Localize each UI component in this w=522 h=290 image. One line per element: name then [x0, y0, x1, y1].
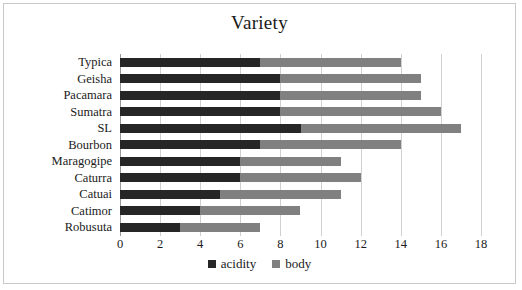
- legend-item-acidity[interactable]: acidity: [208, 257, 256, 270]
- bar-segment-acidity: [120, 190, 220, 199]
- bar-segment-body: [280, 107, 440, 116]
- bar-row: [120, 203, 481, 220]
- y-axis-label-catuai: Catuai: [4, 186, 116, 203]
- legend-item-body[interactable]: body: [272, 257, 311, 270]
- y-axis-label-sumatra: Sumatra: [4, 104, 116, 121]
- bar-row: [120, 54, 481, 71]
- x-axis-tick-0: 0: [117, 237, 123, 252]
- bar-segment-acidity: [120, 74, 280, 83]
- square-marker-dark: [208, 260, 216, 268]
- y-axis-label-pacamara: Pacamara: [4, 87, 116, 104]
- bar-segment-body: [180, 223, 260, 232]
- bars-layer: [120, 54, 481, 236]
- bar-row: [120, 186, 481, 203]
- y-axis-label-typica: Typica: [4, 54, 116, 71]
- chart-title: Variety: [4, 12, 515, 34]
- bar-segment-acidity: [120, 107, 280, 116]
- bar-segment-acidity: [120, 124, 301, 133]
- bar-segment-acidity: [120, 173, 240, 182]
- x-axis-tick-labels: 024681012141618: [120, 237, 481, 255]
- chart-frame: Variety TypicaGeishaPacamaraSumatraSLBou…: [3, 3, 516, 284]
- y-axis-category-labels: TypicaGeishaPacamaraSumatraSLBourbonMara…: [4, 54, 116, 236]
- bar-row: [120, 170, 481, 187]
- bar-segment-body: [240, 173, 360, 182]
- bar-row: [120, 71, 481, 88]
- y-axis-label-robusuta: Robusuta: [4, 219, 116, 236]
- bar-row: [120, 104, 481, 121]
- y-axis-label-maragogipe: Maragogipe: [4, 153, 116, 170]
- bar-segment-body: [200, 206, 300, 215]
- x-axis-tick-8: 8: [277, 237, 283, 252]
- bar-row: [120, 219, 481, 236]
- y-axis-label-catimor: Catimor: [4, 203, 116, 220]
- legend-label: body: [285, 257, 311, 270]
- x-axis-tick-10: 10: [314, 237, 327, 252]
- bar-segment-body: [220, 190, 340, 199]
- x-axis-tick-14: 14: [395, 237, 408, 252]
- bar-segment-acidity: [120, 91, 280, 100]
- bar-row: [120, 120, 481, 137]
- plot-area: [120, 54, 481, 236]
- bar-segment-body: [260, 140, 400, 149]
- x-axis-tick-6: 6: [237, 237, 243, 252]
- bar-row: [120, 87, 481, 104]
- y-axis-label-caturra: Caturra: [4, 170, 116, 187]
- y-axis-label-sl: SL: [4, 120, 116, 137]
- square-marker-gray: [272, 260, 280, 268]
- bar-row: [120, 137, 481, 154]
- chart-legend: aciditybody: [4, 257, 515, 270]
- x-axis-tick-16: 16: [435, 237, 448, 252]
- bar-segment-acidity: [120, 223, 180, 232]
- bar-segment-body: [240, 157, 340, 166]
- gridline: [481, 54, 482, 236]
- bar-segment-body: [260, 58, 400, 67]
- x-axis-tick-18: 18: [475, 237, 488, 252]
- legend-label: acidity: [221, 257, 256, 270]
- y-axis-label-geisha: Geisha: [4, 71, 116, 88]
- x-axis-tick-4: 4: [197, 237, 203, 252]
- bar-segment-acidity: [120, 140, 260, 149]
- bar-segment-acidity: [120, 58, 260, 67]
- bar-segment-acidity: [120, 157, 240, 166]
- x-axis-tick-2: 2: [157, 237, 163, 252]
- bar-row: [120, 153, 481, 170]
- bar-segment-body: [301, 124, 461, 133]
- bar-segment-body: [280, 74, 420, 83]
- bar-segment-body: [280, 91, 420, 100]
- y-axis-label-bourbon: Bourbon: [4, 137, 116, 154]
- bar-segment-acidity: [120, 206, 200, 215]
- x-axis-tick-12: 12: [354, 237, 367, 252]
